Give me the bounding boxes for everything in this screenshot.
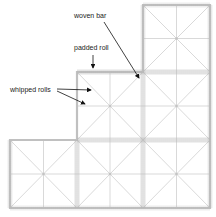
staircase-stitch-diagram (0, 0, 216, 217)
annotation-arrows (57, 22, 139, 104)
padded-roll-label: padded roll (74, 44, 109, 51)
whipped-rolls-arrow-2 (57, 91, 85, 104)
whipped-rolls-label: whipped rolls (10, 86, 51, 93)
whipped-rolls-arrow-1 (57, 89, 91, 90)
woven-bar-label: woven bar (74, 12, 106, 19)
